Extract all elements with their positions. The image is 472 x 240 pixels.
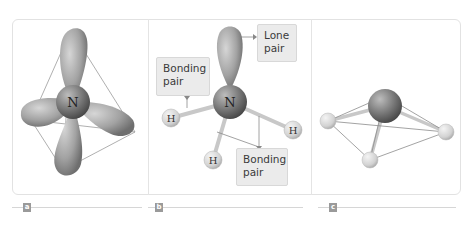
nitrogen-atom: [368, 89, 402, 123]
svg-text:H: H: [167, 113, 176, 124]
panel-label-c: c: [329, 203, 337, 212]
hydrogen-atom: [438, 124, 454, 140]
trigonal-pyramid-diagram: [312, 20, 461, 194]
panel-label-b-row: b: [148, 203, 303, 211]
panel-a: N: [13, 20, 148, 194]
panel-label-a-row: a: [12, 203, 142, 211]
svg-text:H: H: [289, 125, 298, 136]
callout-bonding-pair-bottom: Bonding pair: [236, 148, 288, 186]
atom-symbol: N: [224, 95, 235, 110]
panel-c: [312, 20, 461, 194]
hydrogen-atom: [362, 152, 378, 168]
callout-bonding-pair-left: Bonding pair: [156, 57, 210, 96]
svg-text:H: H: [209, 155, 218, 166]
lone-pair-lobe: [217, 27, 243, 91]
hydrogen-atom: [320, 113, 336, 129]
panel-b: N H H H Lone pair Bonding pair Bonding p…: [149, 20, 311, 194]
panel-label-b: b: [155, 203, 163, 212]
atom-symbol: N: [67, 95, 78, 110]
panel-label-a: a: [23, 203, 31, 212]
callout-lone-pair: Lone pair: [257, 24, 297, 62]
panel-label-c-row: c: [318, 203, 456, 211]
tetrahedral-orbitals-diagram: N: [13, 20, 148, 194]
